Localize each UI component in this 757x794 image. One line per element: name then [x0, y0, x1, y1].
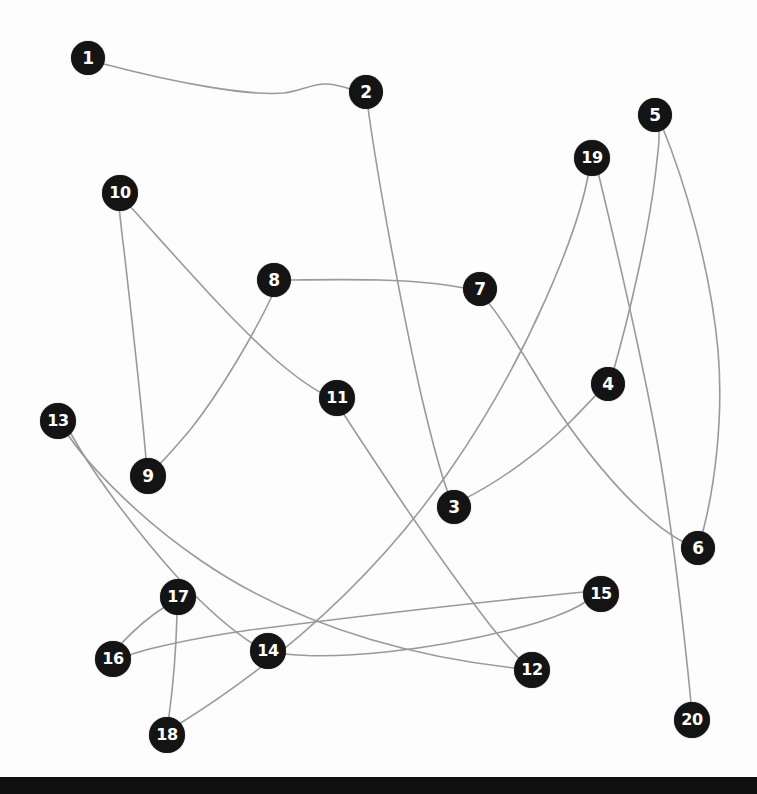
dot-16[interactable]: 16: [95, 641, 131, 677]
dot-17[interactable]: 17: [160, 579, 196, 615]
dot-label-20: 20: [681, 712, 703, 728]
dot-label-1: 1: [82, 49, 94, 66]
dot-1[interactable]: 1: [71, 41, 105, 75]
dot-11[interactable]: 11: [319, 380, 355, 416]
dot-18[interactable]: 18: [149, 717, 185, 753]
dot-label-19: 19: [581, 150, 603, 166]
dot-label-5: 5: [649, 106, 661, 123]
dot-8[interactable]: 8: [257, 263, 291, 297]
dot-9[interactable]: 9: [130, 458, 166, 494]
dot-label-7: 7: [474, 280, 486, 297]
dot-label-17: 17: [167, 589, 189, 605]
dot-label-12: 12: [521, 662, 543, 678]
dot-14[interactable]: 14: [250, 633, 286, 669]
dot-label-10: 10: [109, 185, 131, 201]
dot-label-11: 11: [326, 390, 348, 406]
dot-label-6: 6: [692, 539, 704, 556]
dot-2[interactable]: 2: [349, 75, 383, 109]
dot-4[interactable]: 4: [591, 367, 625, 401]
dot-label-2: 2: [360, 83, 372, 100]
dot-6[interactable]: 6: [681, 531, 715, 565]
dot-label-14: 14: [257, 643, 279, 659]
dot-13[interactable]: 13: [40, 403, 76, 439]
dot-15[interactable]: 15: [583, 576, 619, 612]
dot-20[interactable]: 20: [674, 702, 710, 738]
dot-label-8: 8: [268, 271, 280, 288]
dot-label-4: 4: [602, 375, 614, 392]
dot-label-18: 18: [156, 727, 178, 743]
dot-label-16: 16: [102, 651, 124, 667]
dot-label-15: 15: [590, 586, 612, 602]
dot-10[interactable]: 10: [102, 175, 138, 211]
dot-label-9: 9: [142, 467, 154, 484]
dot-12[interactable]: 12: [514, 652, 550, 688]
dot-label-13: 13: [47, 413, 69, 429]
dot-3[interactable]: 3: [437, 490, 471, 524]
bottom-black-bar: [0, 777, 757, 794]
dot-7[interactable]: 7: [463, 272, 497, 306]
dot-19[interactable]: 19: [574, 140, 610, 176]
dot-label-3: 3: [448, 498, 460, 515]
numbered-dots-layer: 1234567891011121314151617181920: [0, 0, 757, 794]
dot-5[interactable]: 5: [638, 98, 672, 132]
connect-the-dots-canvas: 1234567891011121314151617181920: [0, 0, 757, 794]
